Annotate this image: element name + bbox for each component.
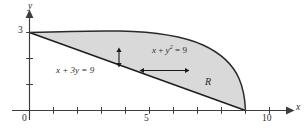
x-tick-label-0: 0 bbox=[22, 114, 27, 124]
math-plot bbox=[0, 0, 307, 131]
x-axis-arrow-icon bbox=[286, 107, 295, 115]
x-tick-label-5: 5 bbox=[144, 114, 149, 124]
region-label-R: R bbox=[205, 77, 211, 87]
parabola-eq-plus: + bbox=[156, 45, 166, 55]
figure-container: y x 3 0 5 10 x + y2 = 9 x + 3y = 9 R bbox=[0, 0, 307, 131]
parabola-equation-label: x + y2 = 9 bbox=[152, 44, 187, 55]
x-tick-label-10: 10 bbox=[262, 114, 272, 124]
line-equation-label: x + 3y = 9 bbox=[56, 66, 94, 75]
y-axis-label: y bbox=[28, 2, 32, 12]
parabola-eq-rhs: = 9 bbox=[173, 45, 187, 55]
x-axis-label: x bbox=[296, 103, 300, 113]
y-tick-label-3: 3 bbox=[18, 26, 23, 36]
